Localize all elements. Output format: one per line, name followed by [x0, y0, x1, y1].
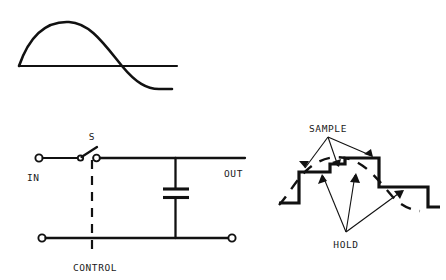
sample-label: SAMPLE	[309, 123, 347, 134]
hold-leader-lines	[323, 175, 402, 232]
hold-label: HOLD	[333, 239, 358, 250]
ground-right-node	[228, 234, 235, 241]
sampled-waveform-group: SAMPLE HOLD	[279, 123, 440, 250]
figure-canvas: IN OUT S CONTROL	[0, 0, 446, 280]
sample-and-hold-figure: IN OUT S CONTROL	[0, 0, 446, 280]
sine-wave-group	[19, 22, 177, 89]
out-label: OUT	[224, 168, 243, 179]
circuit-group: IN OUT S CONTROL	[27, 131, 245, 273]
control-label: CONTROL	[73, 262, 117, 273]
switch-label: S	[89, 131, 95, 142]
sine-curve	[19, 22, 172, 89]
in-label: IN	[27, 172, 40, 183]
in-terminal-node	[35, 154, 42, 161]
